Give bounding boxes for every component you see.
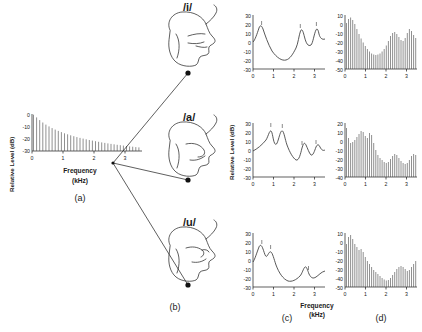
panel-d-a-y-tick-labels: 2010 0-10 -20-30 -40 [336,121,344,181]
panel-c-u-x-ticks [253,287,315,290]
svg-text:-10: -10 [336,31,344,37]
svg-text:-10: -10 [23,124,31,130]
panel-label-d: (d) [376,313,387,323]
svg-text:10: 10 [337,130,343,136]
svg-text:-20: -20 [336,157,344,163]
svg-text:20: 20 [245,22,251,28]
svg-text:3: 3 [313,73,316,79]
svg-text:1: 1 [272,181,275,187]
svg-text:10: 10 [245,139,251,145]
vowel-label-u: /u/ [183,216,196,228]
svg-text:-30: -30 [336,49,344,55]
panel-b-vocal-tract-diagrams: /i/ /a/ /u/ (b) [110,0,240,332]
svg-text:-30: -30 [244,67,252,73]
svg-text:1: 1 [62,155,65,161]
panel-c-a-x-ticks [253,177,315,180]
panel-c-u-y-tick-labels: 3020 100 -10-20 -30 [244,231,252,291]
svg-text:2: 2 [293,181,296,187]
panel-c-i-transfer-function: 3020 100 -10-20 -30 01 23 [232,4,332,94]
panel-d-u-y-tick-labels: 100 -10-20 -30-40 -50 [336,231,344,291]
head-profile-i [169,5,217,66]
panel-c-a-transfer-function: Relative Level (dB) 3020 100 -10-20 -30 … [226,112,332,204]
svg-text:-20: -20 [244,166,252,172]
svg-text:2: 2 [93,155,96,161]
svg-text:-10: -10 [336,148,344,154]
svg-text:2: 2 [385,291,388,297]
svg-text:-40: -40 [336,276,344,282]
svg-text:20: 20 [245,240,251,246]
panel-c-a-x-tick-labels: 01 23 [252,181,317,187]
svg-text:-20: -20 [23,136,31,142]
panel-c-u-axes [253,233,325,287]
svg-text:0: 0 [27,112,30,118]
svg-text:20: 20 [245,130,251,136]
svg-text:1: 1 [364,181,367,187]
panel-c-u-formant-markers [262,240,309,270]
svg-text:10: 10 [245,249,251,255]
panel-a-y-tick-labels: 0 -10 -20 -30 [23,112,31,154]
svg-text:10: 10 [337,13,343,19]
panel-c-a-curve [253,131,325,160]
svg-text:30: 30 [245,13,251,19]
svg-text:1: 1 [364,73,367,79]
svg-text:-30: -30 [244,175,252,181]
svg-text:3: 3 [313,181,316,187]
svg-text:3: 3 [405,291,408,297]
svg-text:0: 0 [248,148,251,154]
panel-d-i-output-spectrum: 100 -10-20 -30-40 -50 [328,4,422,94]
filter-node-i [185,70,190,75]
svg-text:0: 0 [344,291,347,297]
svg-text:-30: -30 [336,166,344,172]
panel-a-x-axis-title-line2: (kHz) [72,177,88,185]
svg-text:1: 1 [272,291,275,297]
svg-text:0: 0 [340,139,343,145]
svg-text:20: 20 [337,121,343,127]
svg-text:2: 2 [293,291,296,297]
panel-c-u-curve [253,245,325,281]
svg-text:0: 0 [31,155,34,161]
panel-d-u-x-tick-labels: 01 23 [344,291,409,297]
panel-d-u-output-spectrum: 100 -10-20 -30-40 -50 [328,222,422,327]
svg-text:-50: -50 [336,285,344,291]
svg-text:0: 0 [252,73,255,79]
panel-label-b: (b) [170,302,181,312]
svg-text:10: 10 [245,31,251,37]
branch-lines [113,73,188,285]
panel-c-i-curve [253,26,325,60]
panel-d-u-x-ticks [345,287,407,290]
svg-text:-40: -40 [336,175,344,181]
filter-node-u [185,282,190,287]
panel-d-i-axes [345,15,417,69]
svg-text:-10: -10 [336,249,344,255]
panel-c-y-axis-title: Relative Level (dB) [228,125,235,180]
filter-node-a [185,177,190,182]
panel-d-a-x-ticks [345,177,407,180]
panel-d-a-harmonic-bars [347,128,416,177]
svg-text:30: 30 [245,231,251,237]
svg-text:-10: -10 [244,157,252,163]
head-profile-a [169,115,217,176]
svg-text:0: 0 [340,22,343,28]
svg-text:0: 0 [252,291,255,297]
panel-d-i-x-tick-labels: 01 23 [344,73,409,79]
panel-label-c: (c) [282,313,293,323]
svg-text:2: 2 [385,181,388,187]
svg-text:0: 0 [344,181,347,187]
svg-text:2: 2 [385,73,388,79]
panel-c-i-x-ticks [253,69,315,72]
svg-text:-30: -30 [244,285,252,291]
svg-text:3: 3 [313,291,316,297]
svg-text:-20: -20 [336,40,344,46]
svg-text:-20: -20 [336,258,344,264]
panel-a-y-axis-title: Relative Level (dB) [8,137,15,192]
panel-c-u-x-tick-labels: 01 23 [252,291,317,297]
svg-text:0: 0 [344,73,347,79]
svg-text:0: 0 [340,240,343,246]
svg-text:-30: -30 [336,267,344,273]
svg-text:-40: -40 [336,58,344,64]
panel-d-a-axes [345,123,417,177]
vowel-label-i: /i/ [183,1,192,13]
svg-text:0: 0 [248,258,251,264]
panel-label-a: (a) [75,193,86,203]
panel-d-u-harmonic-bars [347,235,416,287]
